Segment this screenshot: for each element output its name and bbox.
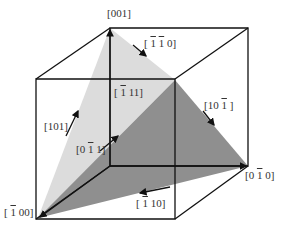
label-0m11: [0 1 1] [76, 143, 105, 155]
label-10m1: [10 1 ] [204, 99, 233, 111]
label-m111: [ 1 11] [114, 86, 143, 98]
label-m100: [ 1 00] [4, 206, 33, 218]
cubic-crystal-diagram [0, 0, 281, 230]
label-m1m10: [ 1 1 0] [144, 37, 176, 49]
label-101: [101] [44, 120, 68, 132]
label-m110: [ 1 10] [136, 197, 165, 209]
label-0m10: [0 1 0] [245, 169, 274, 181]
label-001: [001] [107, 7, 131, 19]
